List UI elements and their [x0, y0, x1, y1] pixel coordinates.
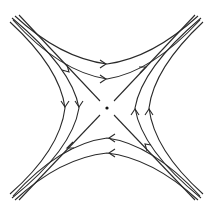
saddle-phase-portrait	[0, 0, 213, 216]
arrow-right-icon	[100, 75, 106, 83]
trajectory-right-outer	[149, 22, 203, 194]
arrow-up-icon	[145, 109, 153, 115]
arrow-left-icon	[109, 149, 115, 157]
trajectory-bottom-inner	[13, 138, 200, 196]
arrow-up-icon	[131, 109, 139, 115]
trajectory-left-outer	[10, 22, 65, 194]
trajectory-top-inner	[13, 20, 200, 79]
trajectories-bottom	[13, 134, 200, 200]
arrow-left-icon	[109, 134, 115, 142]
arrow-right-icon	[100, 60, 106, 68]
arrow-down-icon	[61, 101, 69, 107]
trajectories-top	[13, 16, 200, 83]
trajectory-left-inner	[12, 18, 79, 198]
arrow-down-icon	[75, 101, 83, 107]
saddle-equilibrium-point	[105, 106, 108, 109]
unstable-separatrix-bottom-left	[19, 115, 100, 200]
